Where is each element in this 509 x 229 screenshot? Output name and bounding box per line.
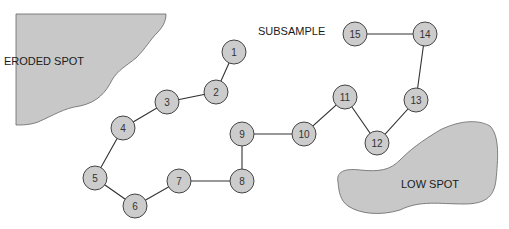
svg-text:1: 1 bbox=[231, 47, 237, 58]
low-spot-region bbox=[338, 122, 498, 214]
sample-node-11: 11 bbox=[333, 85, 357, 109]
svg-text:15: 15 bbox=[349, 29, 361, 40]
sample-node-3: 3 bbox=[155, 90, 179, 114]
svg-text:4: 4 bbox=[120, 123, 126, 134]
sample-node-2: 2 bbox=[204, 80, 228, 104]
low-spot-label: LOW SPOT bbox=[401, 178, 459, 190]
sample-node-15: 15 bbox=[343, 22, 367, 46]
svg-text:9: 9 bbox=[239, 129, 245, 140]
sample-node-12: 12 bbox=[365, 131, 389, 155]
eroded-spot-label: ERODED SPOT bbox=[4, 55, 84, 67]
eroded-spot-region bbox=[16, 14, 166, 125]
sampling-diagram: 123456789101112131415 bbox=[0, 0, 509, 229]
sample-node-4: 4 bbox=[111, 116, 135, 140]
svg-text:10: 10 bbox=[298, 129, 310, 140]
sample-node-9: 9 bbox=[230, 122, 254, 146]
subsample-label: SUBSAMPLE bbox=[258, 25, 325, 37]
svg-text:2: 2 bbox=[213, 87, 219, 98]
sample-node-13: 13 bbox=[404, 88, 428, 112]
sample-node-14: 14 bbox=[413, 22, 437, 46]
svg-text:13: 13 bbox=[410, 95, 422, 106]
sample-node-8: 8 bbox=[230, 169, 254, 193]
svg-text:14: 14 bbox=[419, 29, 431, 40]
svg-text:3: 3 bbox=[164, 97, 170, 108]
svg-text:8: 8 bbox=[239, 176, 245, 187]
svg-text:7: 7 bbox=[176, 176, 182, 187]
svg-text:5: 5 bbox=[92, 173, 98, 184]
sample-node-6: 6 bbox=[123, 194, 147, 218]
sample-node-1: 1 bbox=[222, 40, 246, 64]
svg-text:12: 12 bbox=[371, 138, 383, 149]
svg-text:6: 6 bbox=[132, 201, 138, 212]
sample-node-5: 5 bbox=[83, 166, 107, 190]
sample-node-7: 7 bbox=[167, 169, 191, 193]
svg-text:11: 11 bbox=[340, 92, 351, 103]
sample-node-10: 10 bbox=[292, 122, 316, 146]
